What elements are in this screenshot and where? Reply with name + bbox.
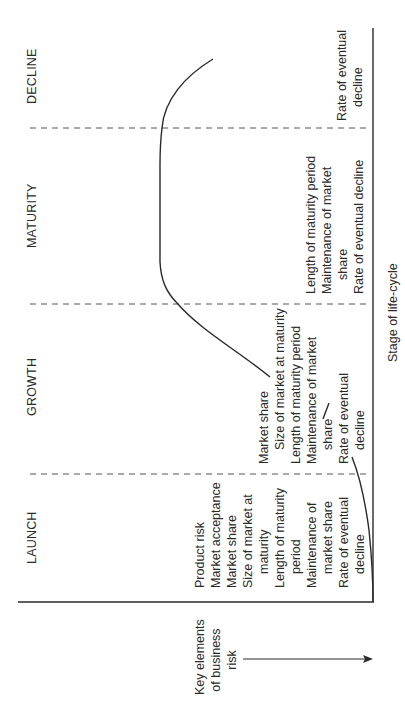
risk-item: Length of maturity: [272, 482, 288, 588]
risk-item: Rate of eventual: [336, 482, 352, 588]
x-axis-label: Stage of life-cycle: [385, 263, 401, 362]
y-axis-label-line: risk: [224, 625, 240, 695]
risk-item: Market share: [224, 482, 240, 588]
risk-item: Length of maturity period: [288, 308, 304, 464]
y-axis-label-line: of business: [208, 625, 224, 695]
y-axis-label-line: Key elements: [192, 625, 208, 695]
risk-curve: [160, 59, 270, 377]
risk-item-continuation: share: [335, 156, 351, 294]
risk-item-continuation: decline: [352, 482, 368, 588]
risk-item-continuation: decline: [352, 308, 368, 464]
stage-label-decline: DECLINE: [25, 48, 39, 104]
risk-item: Rate of eventual decline: [351, 156, 367, 294]
risk-item: Product risk: [192, 482, 208, 588]
risk-list-maturity: Length of maturity period Maintenance of…: [303, 156, 367, 294]
risk-item: Rate of eventual: [336, 308, 352, 464]
risk-item-continuation: Size of market at maturity: [272, 308, 288, 464]
risk-item: Size of market at: [240, 482, 256, 588]
risk-item: Maintenance of market: [319, 156, 335, 294]
risk-item: Market acceptance: [208, 482, 224, 588]
stage-label-launch: LAUNCH: [25, 511, 39, 564]
risk-item: Rate of eventual: [334, 30, 350, 121]
risk-item-continuation: decline: [350, 30, 366, 121]
risk-item: Length of maturity period: [303, 156, 319, 294]
life-cycle-risk-diagram: DECLINE MATURITY GROWTH LAUNCH Product r…: [0, 0, 405, 717]
stage-label-growth: GROWTH: [25, 358, 39, 416]
risk-item-continuation: period: [288, 482, 304, 588]
risk-item: Maintenance of: [304, 482, 320, 588]
risk-item-continuation: share: [320, 308, 336, 464]
risk-item-continuation: maturity: [256, 482, 272, 588]
stage-label-maturity: MATURITY: [25, 183, 39, 248]
risk-list-growth: Market share Size of market at maturity …: [256, 308, 368, 464]
risk-list-launch: Product risk Market acceptance Market sh…: [192, 482, 368, 588]
risk-item: Market share: [256, 308, 272, 464]
risk-item: Maintenance of market: [304, 308, 320, 464]
risk-item-continuation: market share: [320, 482, 336, 588]
risk-list-decline: Rate of eventual decline: [334, 30, 366, 121]
y-axis-label: Key elements of business risk: [192, 625, 240, 695]
